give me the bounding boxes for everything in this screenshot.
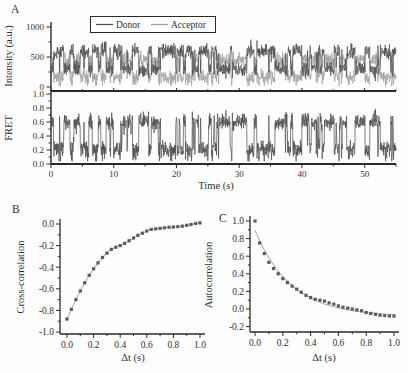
tick-label: 0.4 [114,340,126,350]
legend-donor-label: Donor [116,20,141,30]
tick-label: 0.4 [232,269,244,279]
tick-label: 0.8 [33,103,45,113]
tick-label: -0.4 [39,263,54,273]
cross_correlation-marker [96,261,99,264]
cross_correlation-marker [198,221,201,224]
autocorrelation-marker [318,299,321,302]
tick-label: 0.6 [33,117,45,127]
cross_correlation-marker [132,236,135,239]
tick-label: 0.2 [232,287,244,297]
cross_correlation-marker [101,256,104,259]
autocorrelation-marker [295,288,298,291]
autocorrelation-marker [323,299,326,302]
autocorrelation-marker [327,301,330,304]
cross_correlation-marker [119,244,122,247]
panel-b-label: B [12,203,20,215]
autocorrelation-marker [304,294,307,297]
tick-label: 0.0 [249,338,261,348]
autocorrelation-marker [346,307,349,310]
smfret-figure: 050010000.00.20.40.60.81.001020304050 0.… [0,0,408,373]
panel-c-plot: -0.20.00.20.40.60.81.00.00.20.40.60.81.0 [229,216,400,348]
cross_correlation-marker [136,234,139,237]
intensity-axis-title: Intensity (a.u.) [3,25,15,87]
tick-label: 0.2 [88,340,100,350]
tick-label: 0.6 [232,252,244,262]
cross_correlation-marker [154,227,157,230]
autocorrelation-marker [383,314,386,317]
autocorrelation-marker [337,304,340,307]
tick-label: 0.0 [232,304,244,314]
cross_correlation-marker [128,239,131,242]
cross_correlation-marker [163,226,166,229]
cross_correlation-marker [185,224,188,227]
autocorrelation-marker [365,311,368,314]
autocorrelation-marker [355,308,358,311]
tick-label: -0.2 [229,322,244,332]
autocorrelation-marker [379,314,382,317]
autocorrelation-marker [388,314,391,317]
legend-acceptor-label: Acceptor [171,20,207,30]
autocorrelation-marker [253,219,256,222]
cross_correlation-marker [65,317,68,320]
cross_correlation-marker [150,228,153,231]
tick-label: -0.8 [39,306,54,316]
tick-label: 1.0 [388,338,400,348]
cross_correlation-marker [145,229,148,232]
autocorrelation-marker [300,291,303,294]
fret-trace [51,109,396,161]
cross_correlation-marker [88,274,91,277]
cross_correlation-marker [110,248,113,251]
cross_correlation-marker [172,225,175,228]
tick-label: 0.8 [360,338,372,348]
cross_correlation-marker [189,223,192,226]
tick-label: 1.0 [33,89,45,99]
cross_correlation-marker [70,308,73,311]
tick-label: -0.2 [39,241,54,251]
autocorrelation-axis-title: Autocorrelation [203,241,214,308]
autocorrelation-marker [281,277,284,280]
tick-label: 0.4 [305,338,317,348]
tick-label: 1.0 [232,216,244,226]
panel-c-label: C [219,212,227,224]
tick-label: 20 [172,169,182,179]
panel-a-axes: 050010000.00.20.40.60.81.001020304050 [26,22,396,179]
cross_correlation-marker [159,227,162,230]
cross_correlation-marker [181,225,184,228]
autocorrelation-marker [332,303,335,306]
tick-label: 0.6 [332,338,344,348]
tick-label: 0.0 [33,159,45,169]
panel-c-xaxis-title: Δt (s) [312,352,336,364]
cross_correlation-marker [141,232,144,235]
autocorrelation-marker [309,296,312,299]
tick-label: 0.6 [141,340,153,350]
panel-b-plot: 0.0-0.2-0.4-0.6-0.8-1.00.00.20.40.60.81.… [39,219,206,350]
tick-label: 0.2 [277,338,289,348]
autocorrelation-marker [369,312,372,315]
autocorrelation-marker [314,298,317,301]
panel-b-xaxis-title: Δt (s) [121,352,145,364]
autocorrelation-marker [341,306,344,309]
autocorrelation-marker [291,285,294,288]
tick-label: 0.8 [232,234,244,244]
autocorrelation-marker [277,272,280,275]
cross_correlation-marker [79,289,82,292]
panel-a-label: A [11,3,20,15]
tick-label: 500 [31,52,45,62]
autocorrelation-marker [263,252,266,255]
cross_correlation-marker [114,246,117,249]
autocorrelation-marker [272,267,275,270]
tick-label: 50 [360,169,370,179]
tick-label: 0.4 [33,131,45,141]
tick-label: 0.2 [33,145,44,155]
cross_correlation-marker [176,225,179,228]
fret-axis-title: FRET [3,115,14,141]
tick-label: 30 [235,169,245,179]
cross_correlation-marker [194,222,197,225]
cross-correlation-axis-title: Cross-correlation [15,240,26,314]
cross_correlation-marker [123,242,126,245]
autocorrelation-marker [374,313,377,316]
cross_correlation-marker [105,252,108,255]
autocorrelation-marker [360,309,363,312]
time-axis-title: Time (s) [198,180,234,192]
tick-label: -1.0 [39,327,54,337]
